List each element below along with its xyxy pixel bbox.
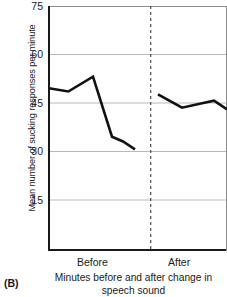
series-line-after	[158, 94, 227, 109]
x-axis-title: Minutes before and after change in speec…	[40, 272, 227, 297]
y-tick-label-45: 45	[20, 98, 43, 108]
gridlines	[48, 55, 227, 201]
chart-svg	[48, 6, 227, 251]
y-tick-label-15: 15	[20, 195, 43, 205]
x-group-label-before: Before	[77, 256, 108, 268]
x-group-label-after: After	[168, 256, 190, 268]
y-tick-label-30: 30	[20, 146, 43, 156]
y-axis-tick-labels: 75 60 45 30 15	[20, 0, 43, 293]
y-tick-label-75: 75	[20, 1, 43, 11]
y-tick-label-60: 60	[20, 49, 43, 59]
panel-letter: (B)	[4, 277, 19, 289]
plot-area	[48, 6, 227, 251]
series-line-before	[49, 77, 135, 150]
